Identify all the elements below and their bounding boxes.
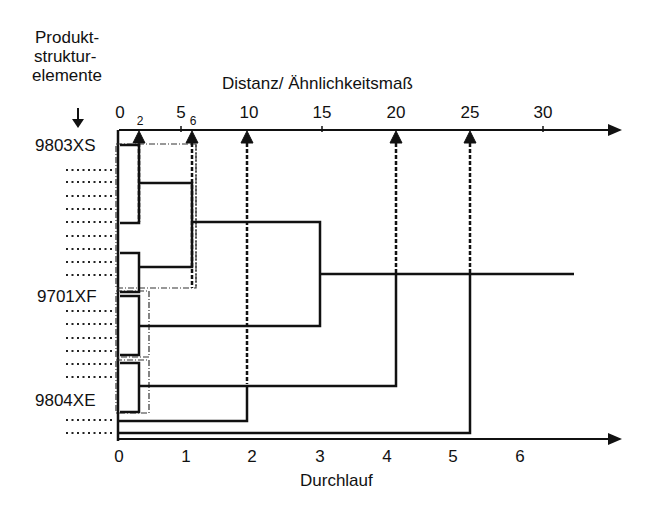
dendrogram-branches (118, 145, 574, 433)
cluster-boxes (116, 144, 196, 413)
threshold-markers (133, 131, 476, 384)
element-rows-dotted (66, 170, 114, 433)
top-axis (119, 124, 622, 136)
bottom-axis (117, 433, 622, 445)
dendrogram-graphic (0, 0, 651, 514)
arrow-down-icon (72, 108, 84, 128)
